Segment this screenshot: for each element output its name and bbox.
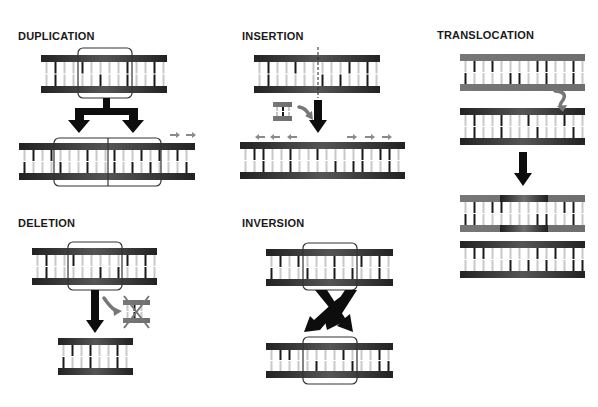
branching-arrow-icon <box>68 98 144 133</box>
arrow-head <box>192 132 196 138</box>
insert-curved-arrow-icon <box>299 107 313 120</box>
dna-strand-bottom <box>240 172 405 179</box>
deletion-curved-arrow-icon <box>104 298 122 316</box>
mutation-types-diagram: DUPLICATION INSERTION TRANSLOCATION DELE… <box>0 0 598 407</box>
small-left-arrow-icon <box>287 134 297 140</box>
small-left-arrow-icon <box>255 134 265 140</box>
dna-strand-top <box>19 143 195 150</box>
translocation-title: TRANSLOCATION <box>437 29 534 41</box>
dna-strand-top <box>254 55 380 62</box>
chromosome-2-dna <box>460 108 585 145</box>
dna-strand-top <box>41 55 167 62</box>
inverted-dna <box>266 343 393 378</box>
dna-strand-top <box>460 241 585 248</box>
dna-strand-top <box>240 142 405 149</box>
duplicated-dna <box>19 143 195 180</box>
small-right-arrow-icon <box>365 134 375 140</box>
dna-strand-bottom <box>266 279 393 286</box>
curve <box>299 107 309 115</box>
small-right-arrow-icon <box>382 134 392 140</box>
arrow-head <box>353 134 357 140</box>
arrow-head <box>113 307 122 316</box>
dna-strand-bottom <box>58 368 133 375</box>
translocated-chromosome-2 <box>460 241 585 278</box>
translocation-panel <box>460 54 585 278</box>
dna-strand-bottom <box>41 86 167 93</box>
dna-strand-top <box>460 54 585 61</box>
dna-strand-top <box>266 249 393 256</box>
dna-strand-top <box>266 343 393 350</box>
dna-strand-bottom <box>19 173 195 180</box>
dna-strand-bottom <box>32 278 157 285</box>
dna-strand-bottom <box>266 371 393 378</box>
arrow-head <box>270 134 274 140</box>
dna-strand-top <box>273 102 292 107</box>
dna-strand-bottom <box>460 84 585 91</box>
arrow-head <box>176 132 180 138</box>
insertion-panel <box>240 47 405 179</box>
translocated-segment-bottom <box>500 225 548 232</box>
arrow-head <box>371 134 375 140</box>
dna-strand-top <box>58 338 133 345</box>
inserted-dna <box>240 142 405 179</box>
deletion-panel <box>32 242 157 375</box>
deleted-dna <box>58 338 133 375</box>
inversion-panel <box>266 243 393 384</box>
insert-fragment <box>273 102 292 121</box>
dna-strand-bottom <box>460 138 585 145</box>
arrow-head <box>388 134 392 140</box>
duplication-title: DUPLICATION <box>18 30 95 42</box>
chromosome-1-dna <box>460 54 585 91</box>
original-dna <box>254 55 380 93</box>
deletion-title: DELETION <box>18 217 75 229</box>
dna-strand-top <box>32 248 157 255</box>
dna-strand-bottom <box>123 318 150 323</box>
dna-strand-bottom <box>254 86 380 93</box>
original-dna <box>32 248 157 285</box>
dna-strand-bottom <box>460 271 585 278</box>
inversion-title: INVERSION <box>242 217 304 229</box>
deletion-arrow-icon <box>86 290 104 333</box>
original-dna <box>41 55 167 93</box>
insertion-title: INSERTION <box>242 30 304 42</box>
small-left-arrow-icon <box>270 134 280 140</box>
original-dna <box>266 249 393 286</box>
small-right-arrow-icon <box>347 134 357 140</box>
arrow-head <box>287 134 291 140</box>
dna-strand-bottom <box>273 116 292 121</box>
translocated-segment-top <box>500 195 548 202</box>
dna-strand-top <box>460 108 585 115</box>
small-right-arrow-icon <box>170 132 180 138</box>
duplication-panel <box>19 48 196 186</box>
arrow-head <box>255 134 259 140</box>
small-right-arrow-icon <box>186 132 196 138</box>
translocation-arrow-icon <box>514 152 532 186</box>
